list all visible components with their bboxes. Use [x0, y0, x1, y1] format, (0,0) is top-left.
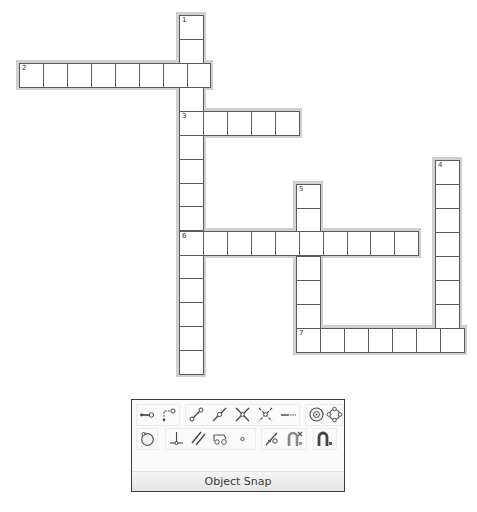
crossword-cell[interactable] — [347, 231, 372, 256]
crossword-cell[interactable] — [179, 254, 204, 279]
perpendicular-snap-icon — [168, 430, 185, 447]
crossword-cell[interactable]: 5 — [296, 184, 321, 209]
endpoint-line-snap-icon — [188, 406, 205, 423]
intersection-snap-icon — [234, 406, 251, 423]
crossword-cell[interactable]: 4 — [435, 160, 460, 185]
crossword-cell[interactable] — [296, 280, 321, 305]
crossword-cell[interactable] — [251, 231, 276, 256]
crossword-cell[interactable] — [370, 231, 395, 256]
tangent-snap-button[interactable] — [137, 428, 158, 449]
crossword-cell[interactable] — [179, 206, 204, 231]
crossword-cell[interactable] — [227, 111, 252, 136]
toolbar-title: Object Snap — [132, 471, 344, 491]
crossword-cell[interactable]: 2 — [19, 63, 44, 88]
intersection-snap-button[interactable] — [232, 404, 253, 425]
nearest-snap-icon — [264, 430, 281, 447]
crossword-cell[interactable] — [251, 111, 276, 136]
osnap-settings-icon — [316, 430, 333, 447]
crossword-cell[interactable] — [179, 350, 204, 375]
crossword-cell[interactable] — [394, 231, 419, 256]
crossword-cell[interactable] — [296, 256, 321, 281]
perpendicular-snap-button[interactable] — [166, 428, 187, 449]
crossword-cell[interactable] — [435, 208, 460, 233]
crossword-cell[interactable] — [296, 304, 321, 329]
crossword-cell[interactable] — [368, 328, 393, 353]
extension-snap-icon — [160, 406, 177, 423]
crossword-cell[interactable] — [43, 63, 68, 88]
crossword-cell[interactable] — [115, 63, 140, 88]
crossword-cell[interactable] — [179, 278, 204, 303]
parallel-snap-icon — [190, 430, 207, 447]
crossword-cell[interactable] — [344, 328, 369, 353]
none-snap-icon — [286, 430, 303, 447]
crossword-cell[interactable] — [91, 63, 116, 88]
object-snap-toolbar: Object Snap — [131, 399, 345, 492]
extension-dashed-snap-button[interactable] — [278, 404, 299, 425]
extension-snap-button[interactable] — [158, 404, 179, 425]
crossword-cell[interactable]: 7 — [296, 328, 321, 353]
crossword-cell[interactable] — [323, 231, 348, 256]
insert-snap-button[interactable] — [210, 428, 231, 449]
crossword-grid: 1234567 — [0, 0, 477, 390]
parallel-snap-button[interactable] — [188, 428, 209, 449]
center-snap-icon — [308, 406, 325, 423]
crossword-cell[interactable] — [435, 232, 460, 257]
crossword-cell[interactable] — [179, 87, 204, 112]
node-snap-icon — [234, 430, 251, 447]
clue-number: 7 — [299, 329, 303, 337]
crossword-cell[interactable] — [203, 231, 228, 256]
crossword-cell[interactable] — [139, 63, 164, 88]
crossword-cell[interactable] — [275, 111, 300, 136]
crossword-cell[interactable] — [179, 135, 204, 160]
endpoint-line-snap-button[interactable] — [186, 404, 207, 425]
crossword-cell[interactable] — [187, 63, 212, 88]
crossword-cell[interactable] — [435, 184, 460, 209]
clue-number: 3 — [182, 112, 186, 120]
crossword-cell[interactable] — [435, 304, 460, 329]
clue-number: 4 — [438, 161, 442, 169]
crossword-cell[interactable] — [299, 231, 324, 256]
endpoint-snap-icon — [139, 406, 156, 423]
crossword-cell[interactable] — [179, 326, 204, 351]
crossword-cell[interactable] — [440, 328, 465, 353]
crossword-cell[interactable]: 6 — [179, 231, 204, 256]
crossword-cell[interactable] — [227, 231, 252, 256]
crossword-cell[interactable] — [163, 63, 188, 88]
osnap-settings-button[interactable] — [314, 428, 335, 449]
crossword-cell[interactable] — [275, 231, 300, 256]
tangent-snap-icon — [139, 430, 156, 447]
crossword-cell[interactable]: 3 — [179, 111, 204, 136]
quadrant-snap-icon — [326, 406, 343, 423]
crossword-cell[interactable] — [435, 280, 460, 305]
crossword-cell[interactable] — [392, 328, 417, 353]
crossword-cell[interactable]: 1 — [179, 15, 204, 40]
quadrant-snap-button[interactable] — [324, 404, 345, 425]
crossword-cell[interactable] — [179, 159, 204, 184]
clue-number: 2 — [22, 64, 26, 72]
endpoint-snap-button[interactable] — [137, 404, 158, 425]
clue-number: 6 — [182, 232, 186, 240]
none-snap-button[interactable] — [284, 428, 305, 449]
crossword-cell[interactable] — [416, 328, 441, 353]
crossword-cell[interactable] — [67, 63, 92, 88]
clue-number: 5 — [299, 185, 303, 193]
insert-snap-icon — [212, 430, 229, 447]
apparent-intersection-snap-button[interactable] — [255, 404, 276, 425]
crossword-cell[interactable] — [179, 39, 204, 64]
crossword-cell[interactable] — [203, 111, 228, 136]
midpoint-snap-icon — [211, 406, 228, 423]
apparent-intersection-snap-icon — [257, 406, 274, 423]
crossword-cell[interactable] — [435, 256, 460, 281]
nearest-snap-button[interactable] — [262, 428, 283, 449]
crossword-cell[interactable] — [179, 183, 204, 208]
extension-dashed-snap-icon — [280, 406, 297, 423]
crossword-cell[interactable] — [320, 328, 345, 353]
crossword-cell[interactable] — [296, 208, 321, 233]
node-snap-button[interactable] — [232, 428, 253, 449]
crossword-cell[interactable] — [179, 302, 204, 327]
midpoint-snap-button[interactable] — [209, 404, 230, 425]
clue-number: 1 — [182, 16, 186, 24]
